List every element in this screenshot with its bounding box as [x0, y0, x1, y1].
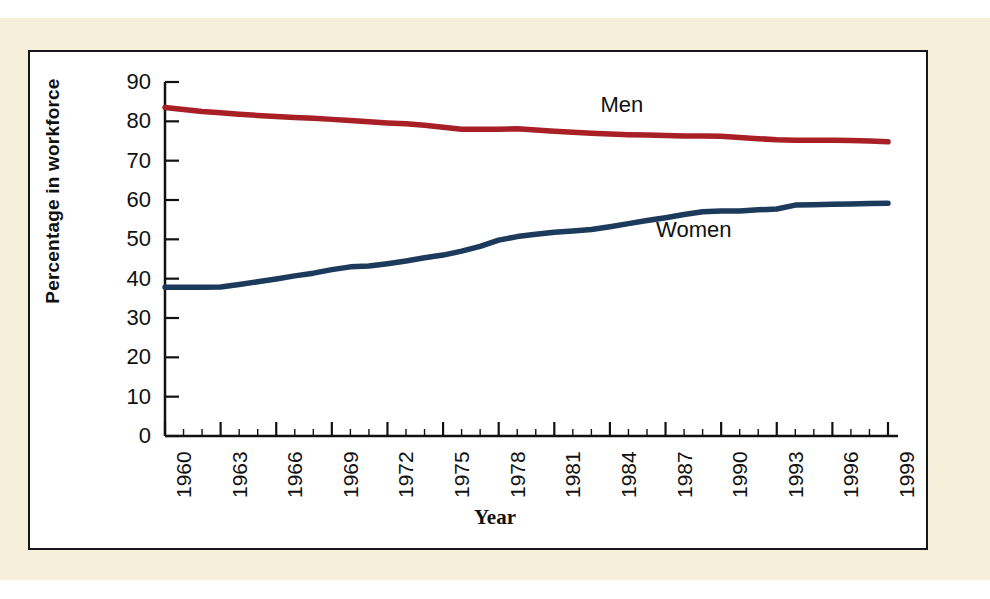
x-tick-label: 1990	[729, 451, 750, 498]
y-axis-title: Percentage in workforce	[42, 76, 64, 306]
x-tick-label: 1975	[451, 451, 472, 498]
x-tick-label: 1993	[785, 451, 806, 498]
x-tick-label: 1969	[340, 451, 361, 498]
series-label-women: Women	[656, 217, 731, 243]
series-label-men: Men	[600, 92, 643, 118]
chart-page: Percentage in workforce Year 90807060504…	[0, 0, 990, 599]
series-line-women	[165, 203, 888, 287]
y-tick-label: 70	[105, 150, 151, 172]
y-tick-label: 20	[105, 346, 151, 368]
y-tick-label: 50	[105, 228, 151, 250]
x-tick-label: 1960	[173, 451, 194, 498]
series-line-men	[165, 108, 888, 142]
x-tick-label: 1966	[284, 451, 305, 498]
y-tick-label: 40	[105, 268, 151, 290]
x-tick-label: 1987	[674, 451, 695, 498]
y-tick-label: 60	[105, 189, 151, 211]
x-tick-label: 1963	[229, 451, 250, 498]
chart-figure: Percentage in workforce Year 90807060504…	[0, 0, 990, 599]
y-tick-label: 80	[105, 110, 151, 132]
x-tick-label: 1981	[562, 451, 583, 498]
x-tick-label: 1984	[618, 451, 639, 498]
x-axis-title: Year	[0, 505, 990, 530]
y-tick-label: 30	[105, 307, 151, 329]
y-tick-label: 10	[105, 386, 151, 408]
y-tick-label: 90	[105, 71, 151, 93]
x-tick-label: 1999	[896, 451, 917, 498]
x-tick-label: 1978	[507, 451, 528, 498]
x-tick-label: 1972	[395, 451, 416, 498]
y-tick-label: 0	[105, 425, 151, 447]
x-tick-label: 1996	[840, 451, 861, 498]
